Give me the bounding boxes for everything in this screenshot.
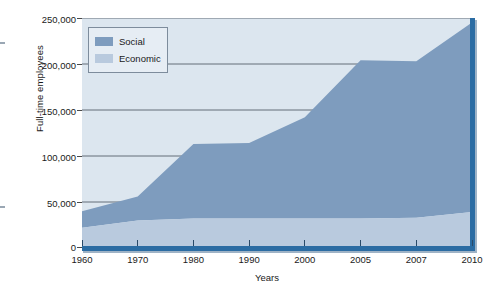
x-tick-mark-1960 xyxy=(82,240,83,246)
x-axis-title: Years xyxy=(0,272,494,283)
y-tick-label-250000: 250,000 xyxy=(30,15,76,25)
chart-container: Full-time employees 250,000 200,000 150,… xyxy=(0,0,494,296)
x-tick-label-1990: 1990 xyxy=(227,254,271,265)
y-tick-label-150000: 150,000 xyxy=(30,107,76,117)
x-tick-mark-2000 xyxy=(304,240,305,246)
legend-label-economic: Economic xyxy=(119,54,161,64)
y-tick-label-200000: 200,000 xyxy=(30,61,76,71)
y-tick-label-50000: 50,000 xyxy=(30,199,76,209)
x-tick-mark-1980 xyxy=(193,240,194,246)
page-edge-mark-bottom xyxy=(0,206,5,208)
y-tick-label-0: 0 xyxy=(30,243,76,253)
x-axis-band-shadow xyxy=(83,251,476,253)
chart-legend: Social Economic xyxy=(88,27,168,73)
legend-label-social: Social xyxy=(119,37,145,47)
legend-swatch-social xyxy=(95,37,113,46)
y-tick-label-100000: 100,000 xyxy=(30,153,76,163)
legend-item-social: Social xyxy=(95,33,161,50)
x-tick-label-1970: 1970 xyxy=(116,254,160,265)
legend-item-economic: Economic xyxy=(95,50,161,67)
x-tick-mark-1970 xyxy=(137,240,138,246)
x-tick-label-2010: 2010 xyxy=(450,254,494,265)
x-tick-mark-2005 xyxy=(360,240,361,246)
x-tick-mark-2010 xyxy=(472,240,473,246)
legend-swatch-economic xyxy=(95,54,113,63)
x-tick-label-2005: 2005 xyxy=(339,254,383,265)
x-tick-mark-1990 xyxy=(249,240,250,246)
x-tick-label-1960: 1960 xyxy=(60,254,104,265)
right-axis-band-shadow xyxy=(475,20,477,253)
x-tick-label-1980: 1980 xyxy=(171,254,215,265)
x-tick-label-2000: 2000 xyxy=(283,254,327,265)
x-tick-mark-2007 xyxy=(416,240,417,246)
x-tick-label-2007: 2007 xyxy=(394,254,438,265)
page-edge-mark-top xyxy=(0,42,5,44)
y-axis-tick-labels: 250,000 200,000 150,000 100,000 50,000 0 xyxy=(26,0,76,296)
